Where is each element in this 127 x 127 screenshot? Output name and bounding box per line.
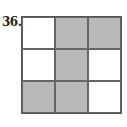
grid-cell-r1-c1-shaded — [55, 49, 88, 81]
shaded-grid — [21, 16, 122, 114]
grid-cell-r0-c1-shaded — [55, 17, 88, 49]
grid-cell-r2-c1-shaded — [55, 81, 88, 113]
problem-number: 36. — [2, 15, 21, 29]
grid-cell-r2-c2 — [88, 81, 121, 113]
grid-cell-r0-c0 — [22, 17, 55, 49]
grid-cell-r1-c2 — [88, 49, 121, 81]
grid-cell-r1-c0 — [22, 49, 55, 81]
grid-cell-r0-c2-shaded — [88, 17, 121, 49]
grid-cell-r2-c0-shaded — [22, 81, 55, 113]
